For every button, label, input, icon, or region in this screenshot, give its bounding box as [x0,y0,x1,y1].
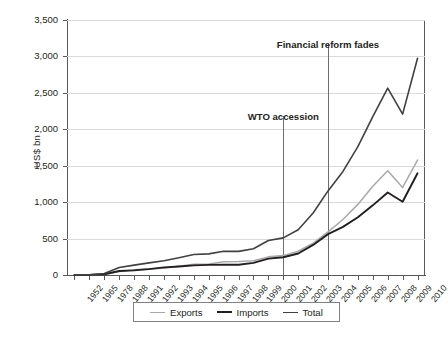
y-tick-label: 500 [0,233,58,244]
legend-label-exports: Exports [170,307,203,318]
chart-figure: US$ bn 05001,0001,5002,0002,5003,0003,50… [0,0,448,341]
x-tick [313,276,314,280]
legend-item-imports: Imports [217,307,269,318]
x-tick [403,276,404,280]
y-tick-label: 2,500 [0,87,58,98]
x-tick [224,276,225,280]
x-tick [149,276,150,280]
x-tick [253,276,254,280]
y-tick-label: 2,000 [0,123,58,134]
y-tick-label: 1,500 [0,160,58,171]
legend-label-total: Total [303,307,323,318]
x-tick-label: 2010 [428,283,448,304]
x-tick-label: 1997 [234,283,254,304]
x-tick [164,276,165,280]
legend-item-total: Total [283,307,323,318]
series-line-total [74,58,417,275]
x-tick [194,276,195,280]
x-tick [209,276,210,280]
x-tick [343,276,344,280]
series-line-exports [74,160,417,275]
x-tick [418,276,419,280]
x-tick [104,276,105,280]
imports-line-swatch [217,311,232,313]
annotation-label-2001: WTO accession [248,111,319,122]
x-tick [89,276,90,280]
y-tick-label: 1,000 [0,196,58,207]
x-tick [268,276,269,280]
exports-line-swatch [150,312,165,313]
x-tick [119,276,120,280]
y-tick-label: 3,000 [0,50,58,61]
y-tick-label: 3,500 [0,14,58,25]
series-line-imports [74,173,417,275]
x-tick [358,276,359,280]
legend-label-imports: Imports [237,307,269,318]
annotation-label-2004: Financial reform fades [277,39,379,50]
x-tick [239,276,240,280]
total-line-swatch [283,312,298,313]
y-tick-label: 0 [0,269,58,280]
x-tick [373,276,374,280]
plot-area [67,20,425,275]
x-tick [134,276,135,280]
x-tick [298,276,299,280]
x-tick [74,276,75,280]
chart-legend: Exports Imports Total [133,302,340,322]
series-lines-group [67,20,425,275]
x-tick [283,276,284,280]
x-tick [388,276,389,280]
y-tick [63,275,67,276]
x-tick-label: 2009 [413,283,433,304]
x-tick [328,276,329,280]
x-tick [179,276,180,280]
legend-item-exports: Exports [150,307,203,318]
